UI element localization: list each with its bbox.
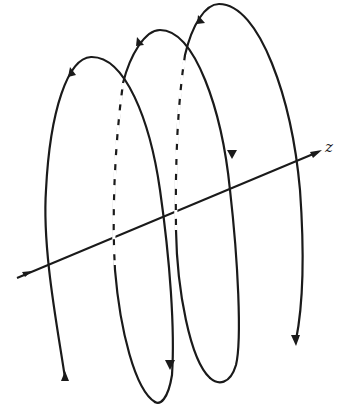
arrow-icon xyxy=(291,335,300,346)
helix-turn-1-back-left xyxy=(114,83,155,402)
z-axis xyxy=(17,150,322,278)
helix-turn-3-front xyxy=(185,4,303,340)
helix-diagram xyxy=(0,0,342,420)
helix-turn-2-back xyxy=(176,55,210,378)
arrow-icon xyxy=(61,371,69,381)
hidden-segment-2 xyxy=(176,55,185,230)
axis-arrowhead-icon xyxy=(310,150,322,158)
arrow-icon xyxy=(227,150,237,159)
z-axis-label: z xyxy=(325,138,333,156)
helix-turn-1-front xyxy=(45,57,172,403)
hidden-segment-1 xyxy=(114,83,123,265)
